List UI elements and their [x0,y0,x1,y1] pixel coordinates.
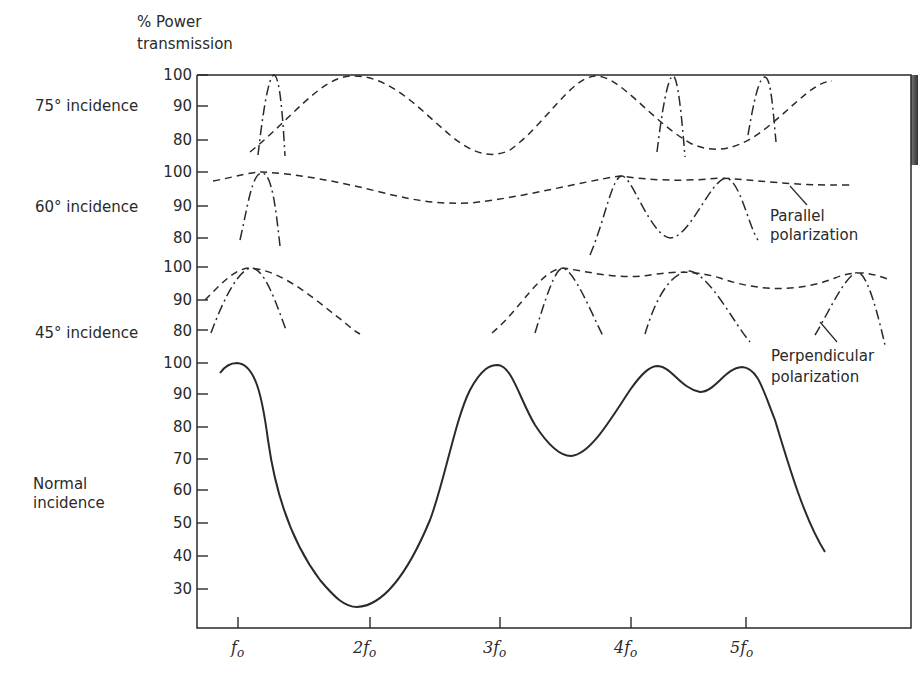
series-75-parallel [250,76,832,154]
pointer-parallel [790,186,807,205]
chart-plot-area [0,0,918,682]
frame [197,75,911,628]
series-60-parallel [213,172,850,203]
y-tick-marks [197,75,208,589]
series-75-perpendicular [258,75,285,156]
series-60-perpendicular [240,173,280,246]
series-45-perpendicular [211,268,286,333]
series-45-parallel [205,268,360,334]
x-tick-marks [238,617,746,628]
pointer-perpendicular [820,322,837,342]
series-normal [220,363,825,607]
